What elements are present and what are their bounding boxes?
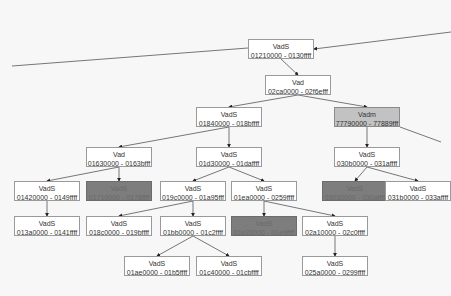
tree-node[interactable]: VadS031b0000 - 033affff bbox=[385, 181, 451, 201]
edge-n5-n9 bbox=[193, 167, 229, 181]
tree-node[interactable]: VadS01c40000 - 01cbffff bbox=[196, 256, 262, 276]
tree-node[interactable]: VadS01210000 - 0130ffff bbox=[248, 39, 314, 59]
tree-node[interactable]: VadS013a0000 - 0141ffff bbox=[14, 216, 80, 236]
node-tag: VadS bbox=[232, 184, 296, 193]
tree-node[interactable]: Vad02ca0000 - 02f6efff bbox=[265, 75, 331, 95]
tree-node[interactable]: VadS01ea0000 - 0259ffff bbox=[231, 181, 297, 201]
edge-n0-n1 bbox=[281, 59, 298, 75]
tree-node[interactable]: VadS018c0000 - 019bffff bbox=[86, 216, 152, 236]
node-tag: VadS bbox=[15, 184, 79, 193]
node-tag: VadS bbox=[232, 219, 296, 228]
node-range: 01630000 - 0163bfff bbox=[87, 159, 151, 168]
tree-node[interactable]: VadS019c0000 - 01a95fff bbox=[160, 181, 226, 201]
node-range: 018c0000 - 019bffff bbox=[87, 228, 151, 237]
edge-n15-n18 bbox=[157, 236, 193, 256]
node-tag: VadS bbox=[197, 150, 261, 159]
node-range: 02ca0000 - 02f6efff bbox=[266, 87, 330, 96]
node-range: 025a0000 - 0299ffff bbox=[303, 268, 367, 277]
node-tag: VadS bbox=[15, 219, 79, 228]
edge-n9-n14 bbox=[119, 201, 193, 216]
node-tag: Vad bbox=[87, 150, 151, 159]
edge-n1-n2 bbox=[229, 95, 298, 107]
node-range: 03030000 - 030affff bbox=[323, 193, 387, 202]
tree-node[interactable]: VadS01840000 - 018bffff bbox=[196, 107, 262, 127]
tree-node[interactable]: VadS01d30000 - 01daffff bbox=[196, 147, 262, 167]
tree-node[interactable]: VadS01ae0000 - 01b5ffff bbox=[124, 256, 190, 276]
tree-node[interactable]: VadS01bb0000 - 01c2ffff bbox=[160, 216, 226, 236]
edge-n10-n17 bbox=[264, 201, 335, 216]
edge-n4-n7 bbox=[47, 167, 119, 181]
edge-n6-n11 bbox=[355, 167, 367, 181]
node-tag: VadS bbox=[161, 184, 225, 193]
node-range: 01ea0000 - 0259ffff bbox=[232, 193, 296, 202]
node-range: 02a10000 - 02c0ffff bbox=[303, 228, 367, 237]
tree-node[interactable]: VadS030b0000 - 031affff bbox=[334, 147, 400, 167]
tree-node[interactable]: VadS03030000 - 030affff bbox=[322, 181, 388, 201]
node-range: 01ae0000 - 01b5ffff bbox=[125, 268, 189, 277]
tree-node[interactable]: VadS025a0000 - 0299ffff bbox=[302, 256, 368, 276]
node-range: 01d30000 - 01daffff bbox=[197, 159, 261, 168]
edge-ext-right-n0 bbox=[314, 32, 451, 49]
node-range: 031b0000 - 033affff bbox=[386, 193, 450, 202]
tree-node[interactable]: Vadm77790000 - 77889fff bbox=[334, 107, 400, 127]
node-range: 01840000 - 018bffff bbox=[197, 119, 261, 128]
node-range: 030b0000 - 031affff bbox=[335, 159, 399, 168]
node-tag: VadS bbox=[87, 219, 151, 228]
edge-n1-n3 bbox=[298, 95, 367, 107]
edge-n6-n12 bbox=[367, 167, 418, 181]
node-tag: VadS bbox=[303, 259, 367, 268]
node-tag: VadS bbox=[87, 184, 151, 193]
node-tag: Vadm bbox=[335, 110, 399, 119]
edge-n5-n10 bbox=[229, 167, 264, 181]
node-range: 77790000 - 77889fff bbox=[335, 119, 399, 128]
node-range: 01e20000 - 01e9ffff bbox=[232, 228, 296, 237]
tree-node[interactable]: VadS02a10000 - 02c0ffff bbox=[302, 216, 368, 236]
node-range: 013a0000 - 0141ffff bbox=[15, 228, 79, 237]
node-tag: VadS bbox=[323, 184, 387, 193]
node-range: 019c0000 - 01a95fff bbox=[161, 193, 225, 202]
node-tag: VadS bbox=[161, 219, 225, 228]
node-tag: VadS bbox=[335, 150, 399, 159]
node-tag: VadS bbox=[249, 42, 313, 51]
node-range: 01420000 - 0149ffff bbox=[15, 193, 79, 202]
node-tag: VadS bbox=[197, 259, 261, 268]
edge-n15-n19 bbox=[193, 236, 229, 256]
node-range: 01bb0000 - 01c2ffff bbox=[161, 228, 225, 237]
node-tag: VadS bbox=[386, 184, 450, 193]
tree-node[interactable]: Vad01630000 - 0163bfff bbox=[86, 147, 152, 167]
edge-n2-n4 bbox=[119, 127, 229, 147]
node-range: 01c40000 - 01cbffff bbox=[197, 268, 261, 277]
tree-node[interactable]: VadS01710000 - 0178ffff bbox=[86, 181, 152, 201]
node-range: 01210000 - 0130ffff bbox=[249, 51, 313, 60]
node-range: 01710000 - 0178ffff bbox=[87, 193, 151, 202]
node-tag: VadS bbox=[197, 110, 261, 119]
edge-n3-ext-right2 bbox=[400, 127, 441, 142]
edge-offscreen-left bbox=[12, 48, 248, 66]
node-tag: VadS bbox=[125, 259, 189, 268]
node-tag: Vad bbox=[266, 78, 330, 87]
node-tag: VadS bbox=[303, 219, 367, 228]
tree-node[interactable]: VadS01420000 - 0149ffff bbox=[14, 181, 80, 201]
tree-node[interactable]: VadS01e20000 - 01e9ffff bbox=[231, 216, 297, 236]
